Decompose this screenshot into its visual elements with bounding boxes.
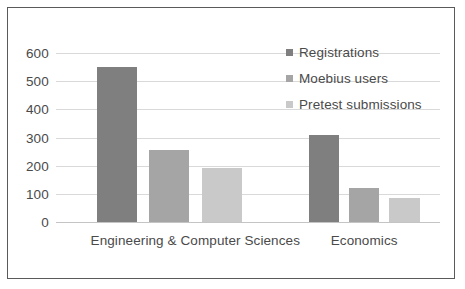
y-axis-tick-label: 600 xyxy=(26,46,49,61)
bar xyxy=(349,188,380,222)
legend-swatch-icon xyxy=(286,75,293,82)
chart-legend: RegistrationsMoebius usersPretest submis… xyxy=(286,41,422,119)
legend-item: Moebius users xyxy=(286,67,422,90)
bar xyxy=(202,168,242,222)
chart-frame: 6005004003002001000Engineering & Compute… xyxy=(7,7,455,279)
legend-item: Pretest submissions xyxy=(286,93,422,116)
legend-swatch-icon xyxy=(286,101,293,108)
legend-item: Registrations xyxy=(286,41,422,64)
legend-label: Registrations xyxy=(299,45,379,60)
y-axis-tick-label: 500 xyxy=(26,74,49,89)
legend-swatch-icon xyxy=(286,49,293,56)
x-axis-category-label: Economics xyxy=(304,233,425,248)
legend-label: Moebius users xyxy=(299,71,388,86)
legend-label: Pretest submissions xyxy=(299,97,422,112)
y-axis-tick-label: 200 xyxy=(26,158,49,173)
bar-group: Engineering & Computer Sciences xyxy=(91,53,248,222)
y-axis-tick-label: 100 xyxy=(26,186,49,201)
y-axis-tick-label: 300 xyxy=(26,130,49,145)
bar xyxy=(97,67,137,222)
bar xyxy=(149,150,189,222)
x-axis-category-label: Engineering & Computer Sciences xyxy=(91,233,248,248)
bar xyxy=(309,135,340,222)
y-axis-tick-label: 400 xyxy=(26,102,49,117)
gridline xyxy=(56,222,440,223)
bar xyxy=(389,198,420,222)
y-axis-tick-label: 0 xyxy=(41,215,49,230)
